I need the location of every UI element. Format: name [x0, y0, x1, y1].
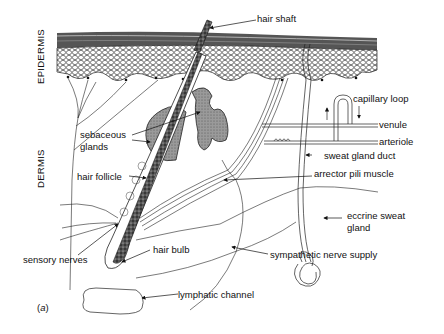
- lymphatic-channel: [83, 288, 143, 314]
- panel-label-close: ): [45, 302, 48, 313]
- label-arteriole: arteriole: [379, 136, 413, 147]
- layer-label-dermis: DERMIS: [35, 149, 46, 188]
- label-hair-bulb: hair bulb: [153, 244, 189, 255]
- label-arrector-pili-muscle: arrector pili muscle: [314, 168, 394, 179]
- label-sensory-nerves: sensory nerves: [23, 254, 87, 265]
- label-sweat-gland-duct: sweat gland duct: [324, 150, 395, 161]
- label-eccrine-sweat-gland-1: eccrine sweat: [347, 210, 405, 221]
- label-lymphatic-channel: lymphatic channel: [178, 289, 254, 300]
- label-venule: venule: [379, 119, 407, 130]
- label-hair-shaft: hair shaft: [257, 13, 296, 24]
- label-sympathetic-nerve-supply: sympathetic nerve supply: [270, 249, 377, 260]
- dermal-curves: [136, 160, 378, 310]
- panel-label: (a): [37, 302, 49, 313]
- label-hair-follicle: hair follicle: [77, 171, 122, 182]
- layer-label-epidermis: EPIDERMIS: [35, 29, 46, 84]
- label-capillary-loop: capillary loop: [353, 93, 408, 104]
- label-eccrine-sweat-gland-2: gland: [347, 222, 370, 233]
- skin-cross-section-diagram: [0, 0, 444, 334]
- label-sebaceous-glands-1: sebaceous: [80, 129, 126, 140]
- label-sebaceous-glands-2: glands: [80, 141, 108, 152]
- epidermis-cell-layer: [57, 45, 377, 81]
